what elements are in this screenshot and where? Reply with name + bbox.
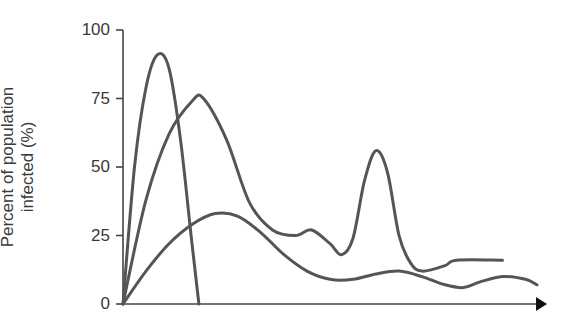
y-axis-label-line-2: infected (%) — [18, 47, 38, 287]
y-tick-label: 75 — [70, 90, 110, 107]
y-axis — [116, 30, 123, 305]
y-axis-label: Percent of population infected (%) — [0, 47, 38, 287]
series-layer — [123, 53, 537, 304]
y-tick-label: 0 — [70, 295, 110, 312]
x-axis-arrow-icon — [536, 297, 547, 311]
y-tick-label: 100 — [70, 21, 110, 38]
y-tick-label: 50 — [70, 158, 110, 175]
y-axis-label-line-1: Percent of population — [0, 47, 18, 287]
series-line-curve-a — [123, 53, 199, 304]
y-tick-label: 25 — [70, 227, 110, 244]
x-axis — [123, 297, 547, 311]
